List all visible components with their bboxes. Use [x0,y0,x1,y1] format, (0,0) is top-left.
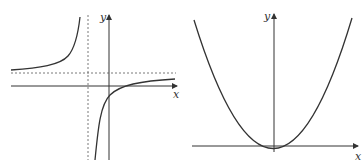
y-label-left: y [99,11,107,24]
x-label-right: x [355,150,362,163]
hyperbola-left-branch [11,17,80,70]
parabola-graph: y x [192,10,362,163]
graphs-canvas: y x y x [0,0,364,167]
x-label-left: x [173,88,180,101]
hyperbola-graph: y x [11,11,180,160]
y-label-right: y [263,10,271,23]
parabola-curve [194,18,352,149]
hyperbola-right-branch [95,79,175,160]
